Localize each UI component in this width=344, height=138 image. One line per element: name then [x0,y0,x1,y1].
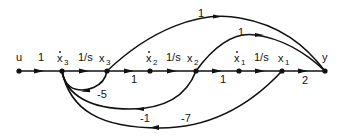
gain-fb-7: -7 [181,112,191,124]
node-x1 [279,68,284,73]
label-x3dot: x 3 [57,51,69,67]
arrow-icon [79,69,89,74]
node-y [322,68,327,73]
label-u: u [16,51,22,63]
arrow-icon [34,69,44,74]
gain-x1-y: 2 [302,74,308,86]
arrow-icon [255,69,265,74]
node-x2 [193,68,198,73]
gain-u-x3dot: 1 [38,51,44,63]
svg-text:3: 3 [106,58,111,67]
label-y: y [322,51,328,63]
gain-x2-y: 1 [238,26,244,38]
gain-int1: 1/s [254,51,269,63]
arrow-icon [167,69,177,74]
label-x2dot: x 2 [146,51,158,67]
arrow-icon [150,125,159,130]
svg-text:x: x [187,52,193,64]
label-x2: x 2 [187,52,199,67]
branch-x3-to-y [107,16,325,71]
svg-text:x: x [99,52,105,64]
svg-text:2: 2 [153,58,158,67]
gain-fb-5: -5 [97,88,107,100]
gain-x2-x1dot: 1 [220,73,226,85]
svg-text:3: 3 [64,58,69,67]
gain-fb-1: -1 [140,112,150,124]
signal-flow-graph: u x 3 x 3 x 2 x 2 x 1 x 1 y 1 [0,0,344,138]
label-x1dot: x 1 [234,51,246,67]
svg-text:2: 2 [194,58,199,67]
gain-labels: 1 1/s 1 1/s 1 1/s 2 1 1 -5 -1 -7 [38,7,308,124]
label-x3: x 3 [99,52,111,67]
svg-text:1: 1 [241,58,246,67]
gain-int3: 1/s [78,51,93,63]
svg-text:x: x [57,52,63,64]
arrow-icon [135,107,144,111]
svg-text:1: 1 [285,58,290,67]
feedforward-branches [107,16,325,71]
node-u [16,68,21,73]
label-x1: x 1 [278,52,290,67]
gain-int2: 1/s [166,51,181,63]
arrow-icon [298,69,308,74]
node-x3 [104,68,109,73]
node-x3dot [59,68,64,73]
feedback-branches [62,71,282,128]
svg-text:x: x [278,52,284,64]
svg-text:x: x [234,52,240,64]
gain-x3-y: 1 [198,7,204,19]
node-x1dot [236,68,241,73]
arrow-icon [213,15,222,19]
svg-text:x: x [146,52,152,64]
node-x2dot [147,68,152,73]
gain-x3-x2dot: 1 [131,73,137,85]
